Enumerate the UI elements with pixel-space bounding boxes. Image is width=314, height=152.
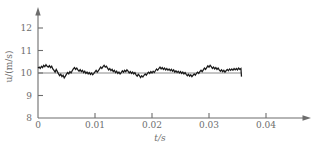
xtick-label-0.02: 0.02 (135, 121, 169, 130)
xtick-label-0.04: 0.04 (249, 121, 283, 130)
y-axis-title: u/(m/s) (5, 39, 14, 95)
x-axis-title: t/s (140, 134, 180, 143)
chart-figure: 12 11 10 9 8 0 0.01 0.02 0.03 0.04 u/(m/… (0, 0, 314, 152)
xtick-label-0.01: 0.01 (78, 121, 112, 130)
y-axis (35, 7, 40, 118)
y-axis-ticks (38, 28, 43, 96)
ytick-label-12: 12 (10, 24, 32, 33)
velocity-signal-line (38, 65, 241, 78)
xtick-label-0.03: 0.03 (192, 121, 226, 130)
xtick-label-0: 0 (21, 121, 55, 130)
x-axis-ticks (95, 113, 266, 118)
